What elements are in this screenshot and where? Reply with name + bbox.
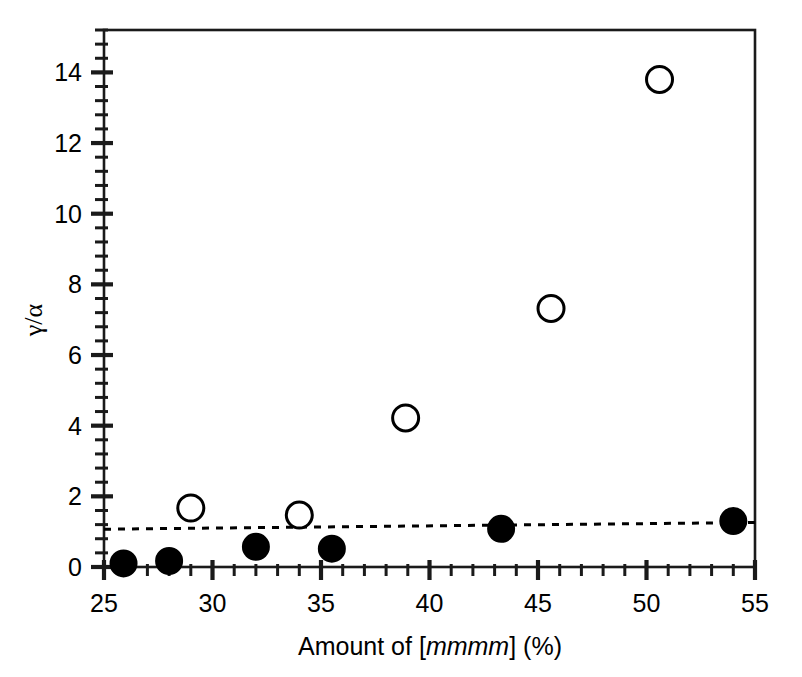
data-point-filled bbox=[319, 536, 345, 562]
data-point-open bbox=[178, 495, 204, 521]
y-tick-label: 10 bbox=[54, 200, 82, 228]
y-tick-label: 4 bbox=[68, 412, 82, 440]
scatter-plot: 02468101214 25303540455055 Amount of [mm… bbox=[0, 0, 802, 677]
x-tick-label: 50 bbox=[633, 589, 661, 617]
data-point-open bbox=[286, 502, 312, 528]
x-tick-label: 40 bbox=[416, 589, 444, 617]
x-axis-title: Amount of [mmmm] (%) bbox=[298, 632, 562, 660]
data-point-filled bbox=[488, 516, 514, 542]
y-axis-title: γ/α bbox=[19, 303, 48, 337]
y-tick-label: 12 bbox=[54, 129, 82, 157]
data-point-filled bbox=[156, 548, 182, 574]
x-tick-label: 30 bbox=[199, 589, 227, 617]
y-tick-label: 2 bbox=[68, 482, 82, 510]
x-tick-label: 25 bbox=[90, 589, 118, 617]
y-tick-label: 8 bbox=[68, 270, 82, 298]
y-tick-label: 6 bbox=[68, 341, 82, 369]
y-tick-label: 0 bbox=[68, 553, 82, 581]
data-point-filled bbox=[111, 550, 137, 576]
x-tick-label: 45 bbox=[524, 589, 552, 617]
data-point-open bbox=[647, 66, 673, 92]
data-point-filled bbox=[243, 534, 269, 560]
x-tick-label: 35 bbox=[307, 589, 335, 617]
x-tick-label: 55 bbox=[741, 589, 769, 617]
data-point-open bbox=[393, 405, 419, 431]
data-point-open bbox=[538, 295, 564, 321]
data-point-filled bbox=[720, 508, 746, 534]
y-tick-label: 14 bbox=[54, 58, 82, 86]
figure-root: 02468101214 25303540455055 Amount of [mm… bbox=[0, 0, 802, 677]
